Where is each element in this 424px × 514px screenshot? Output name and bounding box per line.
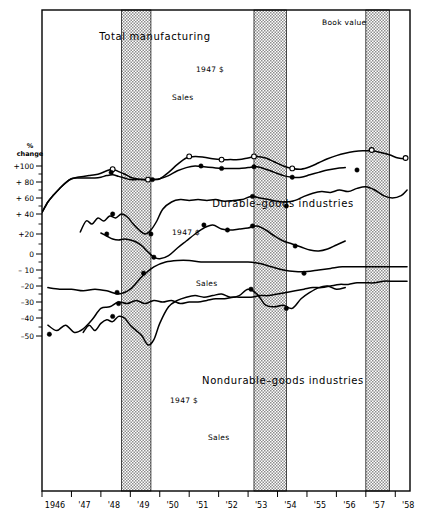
data-point-filled-marker: [116, 301, 120, 305]
y-axis-tick-label: +100: [13, 162, 34, 171]
data-point-filled-marker: [250, 224, 254, 228]
recession-band: [366, 10, 390, 491]
y-axis-tick-label: 0: [29, 250, 34, 259]
panel-title-durable-goods: Durable–goods industries: [212, 198, 353, 209]
x-axis-tick-label: '56: [343, 501, 355, 510]
data-point-filled-marker: [290, 175, 294, 179]
data-point-open-marker: [290, 166, 295, 171]
x-axis-tick-label: '50: [167, 501, 179, 510]
data-point-filled-marker: [202, 223, 206, 227]
y-axis-tick-label: –30: [21, 298, 35, 307]
x-axis-tick-label: '55: [314, 501, 326, 510]
data-point-filled-marker: [105, 232, 109, 236]
shaded-recession-bands: [121, 10, 389, 491]
data-point-filled-marker: [225, 228, 229, 232]
x-axis-tick-label: '57: [373, 501, 385, 510]
series-label-total-1947-dollars: 1947 $: [196, 65, 224, 74]
data-point-filled-marker: [249, 287, 253, 291]
y-axis-caption-line2: change: [17, 150, 44, 158]
x-axis-tick-label: 1946: [45, 501, 65, 510]
data-point-filled-marker: [149, 232, 153, 236]
series-curve-nondurable-goods-industries-sales: [48, 281, 407, 332]
x-axis-tick-label: '48: [108, 501, 120, 510]
y-axis-tick-label: –20: [21, 282, 35, 291]
data-point-filled-marker: [199, 164, 203, 168]
y-axis-ticks: [36, 166, 42, 336]
recession-band: [254, 10, 286, 491]
data-point-filled-marker: [219, 166, 223, 170]
series-curve-nondurable-goods-industries-1947: [48, 260, 407, 294]
data-point-filled-marker: [150, 177, 154, 181]
data-point-filled-marker: [110, 314, 114, 318]
data-point-filled-marker: [47, 332, 51, 336]
data-point-filled-marker: [284, 306, 288, 310]
data-point-filled-marker: [115, 290, 119, 294]
data-point-open-marker: [403, 156, 408, 161]
y-axis-tick-label: + 60: [16, 194, 34, 203]
y-axis-tick-label: –40: [21, 314, 35, 323]
plot-frame: [42, 10, 410, 491]
data-point-filled-marker: [152, 255, 156, 259]
x-axis-tick-label: '54: [284, 501, 296, 510]
y-axis-tick-label: –50: [21, 332, 35, 341]
data-point-filled-marker: [302, 271, 306, 275]
data-point-filled-marker: [110, 212, 114, 216]
data-point-open-marker: [187, 154, 192, 159]
data-point-filled-marker: [109, 170, 113, 174]
y-axis-tick-label: + 80: [16, 178, 34, 187]
data-point-filled-marker: [293, 244, 297, 248]
x-axis-tick-label: '58: [402, 501, 414, 510]
panel-title-nondurable-goods: Nondurable–goods industries: [202, 375, 364, 386]
data-curves: [42, 151, 407, 345]
chart-figure: +100+ 80+ 60+ 40+200– 10–20–30–40–50 194…: [0, 0, 424, 514]
data-point-open-marker: [252, 154, 257, 159]
x-axis-tick-label: '52: [225, 501, 237, 510]
x-axis-ticks: [42, 491, 395, 497]
x-axis-tick-label: '47: [78, 501, 90, 510]
y-axis-tick-label: +20: [18, 230, 34, 239]
data-point-filled-marker: [252, 165, 256, 169]
chart-svg: +100+ 80+ 60+ 40+200– 10–20–30–40–50 194…: [0, 0, 424, 514]
x-axis-tick-labels: 1946'47'48'49'50'51'52'53'54'55'56'57'58: [45, 501, 415, 510]
data-point-filled-marker: [355, 168, 359, 172]
series-label-total-sales: Sales: [172, 93, 193, 102]
series-label-nondurable-sales: Sales: [208, 433, 229, 442]
y-axis-caption-line1: %: [27, 142, 34, 150]
data-point-filled-marker: [141, 271, 145, 275]
data-point-open-marker: [219, 157, 224, 162]
series-label-durable-1947-dollars: 1947 $: [172, 228, 200, 237]
panel-title-total-manufacturing: Total manufacturing: [98, 31, 210, 42]
x-axis-tick-label: '53: [255, 501, 267, 510]
y-axis-caption: % change: [17, 142, 44, 158]
series-label-nondurable-1947-dollars: 1947 $: [170, 396, 198, 405]
y-axis-tick-labels: +100+ 80+ 60+ 40+200– 10–20–30–40–50: [13, 162, 34, 341]
series-label-durable-sales: Sales: [196, 279, 217, 288]
x-axis-tick-label: '49: [137, 501, 149, 510]
series-label-book-value: Book value: [322, 18, 367, 27]
y-axis-tick-label: – 10: [18, 266, 34, 275]
data-point-open-marker: [369, 148, 374, 153]
y-axis-tick-label: + 40: [16, 210, 34, 219]
x-axis-tick-label: '51: [196, 501, 208, 510]
data-point-open-marker: [146, 177, 151, 182]
